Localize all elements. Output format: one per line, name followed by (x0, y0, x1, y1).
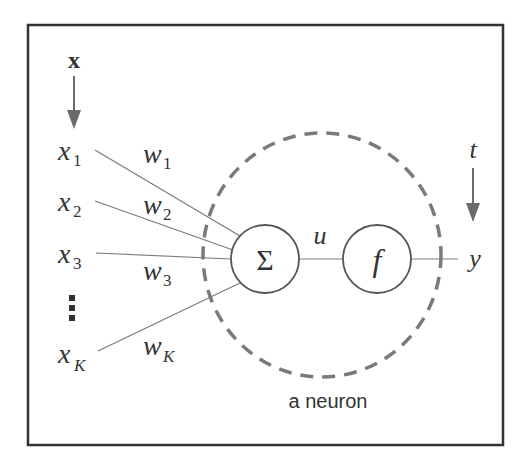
input-vector-label: x (68, 47, 80, 73)
svg-text:2: 2 (163, 205, 172, 224)
svg-text:1: 1 (73, 151, 82, 170)
sigma-icon: Σ (256, 243, 273, 276)
ellipsis-icon (69, 295, 75, 321)
svg-text:x: x (57, 238, 71, 269)
activation-node: f (343, 225, 411, 293)
svg-text:w: w (143, 138, 162, 169)
intermediate-label: u (314, 221, 327, 250)
output-label: y (466, 244, 481, 273)
svg-text:2: 2 (73, 202, 82, 221)
svg-text:3: 3 (73, 254, 82, 273)
svg-text:w: w (143, 330, 162, 361)
svg-text:w: w (143, 255, 162, 286)
svg-text:x: x (57, 135, 71, 166)
svg-text:K: K (73, 356, 87, 375)
svg-text:x: x (57, 186, 71, 217)
sum-node: Σ (231, 225, 299, 293)
neuron-caption: a neuron (289, 390, 368, 412)
svg-text:K: K (162, 347, 176, 366)
svg-text:1: 1 (163, 154, 172, 173)
svg-text:x: x (57, 338, 71, 369)
target-label: t (469, 135, 477, 164)
svg-text:3: 3 (163, 271, 172, 290)
neuron-diagram: x t Σ f u y x 1 x 2 x 3 (0, 0, 530, 471)
svg-text:w: w (143, 189, 162, 220)
